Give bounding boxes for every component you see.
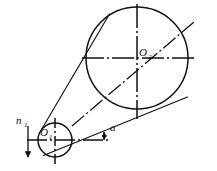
label-large-pulley-center-subscript: 2 bbox=[148, 53, 152, 61]
label-rotation-speed: n bbox=[16, 114, 22, 126]
label-small-pulley-center: O bbox=[40, 126, 48, 138]
large-pulley-group bbox=[82, 4, 197, 119]
belt-upper-tangent-line bbox=[42, 14, 110, 130]
label-small-pulley-center-subscript: 1 bbox=[49, 133, 53, 141]
belt-tangent-lines bbox=[42, 14, 188, 156]
small-pulley-group bbox=[27, 118, 111, 164]
technical-diagram-canvas: O 1 O 2 n 1 a bbox=[0, 0, 217, 171]
label-large-pulley-center: O bbox=[139, 46, 147, 58]
label-angle: a bbox=[110, 121, 116, 133]
label-rotation-speed-subscript: 1 bbox=[24, 121, 28, 129]
belt-drive-diagram-svg: O 1 O 2 n 1 a bbox=[0, 0, 217, 171]
diagram-labels: O 1 O 2 n 1 a bbox=[16, 46, 152, 141]
